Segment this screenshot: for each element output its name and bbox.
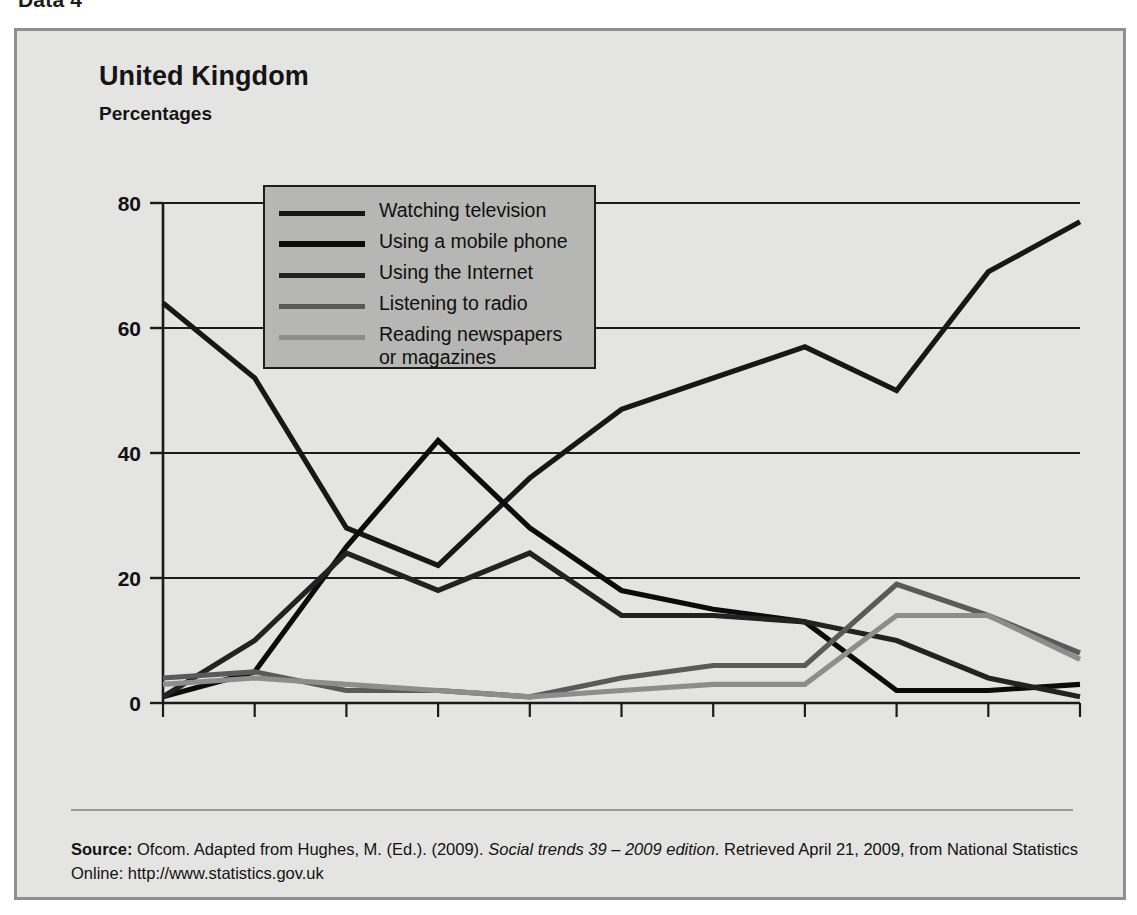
figure-panel: United Kingdom Percentages 0204060805–78… [14, 28, 1126, 900]
legend-item-listening-to-radio: Listening to radio [279, 292, 584, 323]
legend-item-using-the-internet: Using the Internet [279, 261, 584, 292]
legend-swatch-using-a-mobile-phone [279, 230, 375, 258]
plot-area: 0204060805–78–1112–1516–1920–2425–3435–4… [17, 31, 1129, 731]
x-tick-label: 8–11 [233, 728, 276, 731]
legend-item-using-a-mobile-phone: Using a mobile phone [279, 230, 584, 261]
x-tick-label: 5–7 [146, 728, 179, 731]
legend-swatch-watching-television [279, 199, 375, 227]
source-label: Source: [71, 840, 132, 858]
page-root: Data 4 United Kingdom Percentages 020406… [0, 0, 1137, 915]
legend-label-reading-newspapers-or-magazines: Reading newspapers or magazines [375, 323, 562, 369]
chart-legend: Watching television Using a mobile phone… [263, 185, 596, 369]
source-title-italic: Social trends 39 – 2009 edition [488, 840, 715, 858]
series-line [163, 553, 1080, 697]
line-chart: 0204060805–78–1112–1516–1920–2425–3435–4… [17, 31, 1129, 731]
y-tick-label: 0 [129, 692, 141, 715]
source-note: Source: Ofcom. Adapted from Hughes, M. (… [71, 837, 1089, 885]
legend-swatch-listening-to-radio [279, 292, 375, 320]
y-tick-label: 60 [118, 317, 141, 340]
legend-label-watching-television: Watching television [375, 199, 546, 222]
legend-label-using-a-mobile-phone: Using a mobile phone [375, 230, 568, 253]
x-tick-label: 75 [1069, 728, 1091, 731]
source-divider [71, 809, 1073, 811]
source-text-a: Ofcom. Adapted from Hughes, M. (Ed.). (2… [132, 840, 488, 858]
y-tick-label: 80 [118, 192, 141, 215]
legend-swatch-using-the-internet [279, 261, 375, 289]
legend-label-listening-to-radio: Listening to radio [375, 292, 528, 315]
x-tick-label: 55–64 [869, 728, 925, 731]
x-tick-label: 65–74 [960, 728, 1016, 731]
series-line [163, 616, 1080, 697]
y-tick-label: 40 [118, 442, 141, 465]
legend-swatch-reading-newspapers-or-magazines [279, 323, 375, 351]
y-tick-label: 20 [118, 567, 141, 590]
x-tick-label: 20–24 [502, 728, 558, 731]
legend-item-watching-television: Watching television [279, 199, 584, 230]
legend-label-using-the-internet: Using the Internet [375, 261, 533, 284]
source-text-b: . Retrieved April 21, 2009, from Nationa… [715, 840, 1008, 858]
x-tick-label: 16–19 [410, 728, 466, 731]
top-caption: Data 4 [18, 0, 82, 14]
x-tick-label: 25–34 [594, 728, 650, 731]
x-tick-label: 12–15 [319, 728, 375, 731]
x-tick-label: 35–44 [685, 728, 741, 731]
legend-item-reading-newspapers-or-magazines: Reading newspapers or magazines [279, 323, 584, 377]
x-tick-label: 45–54 [777, 728, 833, 731]
